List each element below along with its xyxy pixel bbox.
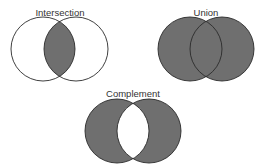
intersection-title: Intersection — [35, 7, 84, 18]
union-diagram: Union — [158, 7, 254, 81]
intersection-diagram: Intersection — [11, 7, 108, 81]
complement-title: Complement — [106, 88, 160, 99]
venn-diagrams: Intersection Union Complement — [0, 0, 274, 167]
union-title: Union — [194, 7, 219, 18]
complement-diagram: Complement — [85, 88, 181, 163]
complement-shaded-region — [85, 99, 181, 163]
